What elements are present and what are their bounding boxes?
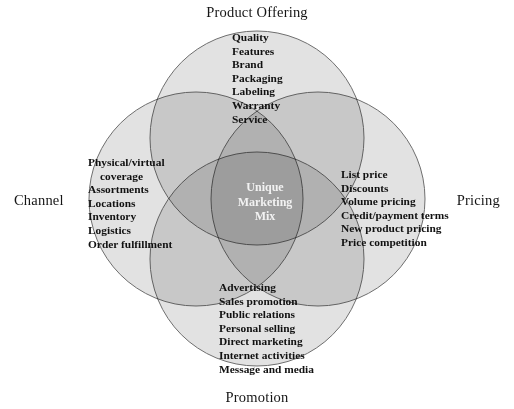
core-label-line-2: Marketing <box>226 195 304 210</box>
list-item: Assortments <box>88 183 172 197</box>
center-core-label: Unique Marketing Mix <box>226 180 304 224</box>
list-item: Direct marketing <box>219 335 314 349</box>
list-item: Physical/virtual <box>88 156 172 170</box>
list-item: Quality <box>232 31 283 45</box>
list-item: New product pricing <box>341 222 449 236</box>
list-item: Inventory <box>88 210 172 224</box>
list-item: Volume pricing <box>341 195 449 209</box>
list-item: Labeling <box>232 85 283 99</box>
list-item: Public relations <box>219 308 314 322</box>
list-item: Advertising <box>219 281 314 295</box>
list-item: Internet activities <box>219 349 314 363</box>
axis-label-product-offering: Product Offering <box>0 4 514 21</box>
list-item: Message and media <box>219 363 314 377</box>
axis-label-promotion: Promotion <box>0 389 514 406</box>
list-item: Locations <box>88 197 172 211</box>
item-list-pricing: List price Discounts Volume pricing Cred… <box>341 168 449 250</box>
axis-label-pricing: Pricing <box>457 192 500 209</box>
list-item: Personal selling <box>219 322 314 336</box>
core-label-line-3: Mix <box>226 209 304 224</box>
list-item: coverage <box>88 170 172 184</box>
item-list-product-offering: Quality Features Brand Packaging Labelin… <box>232 31 283 126</box>
axis-label-channel: Channel <box>14 192 64 209</box>
list-item: Price competition <box>341 236 449 250</box>
list-item: Credit/payment terms <box>341 209 449 223</box>
list-item: Logistics <box>88 224 172 238</box>
list-item: Service <box>232 113 283 127</box>
list-item: List price <box>341 168 449 182</box>
list-item: Brand <box>232 58 283 72</box>
list-item: Warranty <box>232 99 283 113</box>
core-label-line-1: Unique <box>226 180 304 195</box>
list-item: Sales promotion <box>219 295 314 309</box>
item-list-promotion: Advertising Sales promotion Public relat… <box>219 281 314 376</box>
item-list-channel: Physical/virtual coverage Assortments Lo… <box>88 156 172 251</box>
list-item: Features <box>232 45 283 59</box>
list-item: Discounts <box>341 182 449 196</box>
list-item: Order fulfillment <box>88 238 172 252</box>
list-item: Packaging <box>232 72 283 86</box>
venn-diagram-figure: .lobe { fill: #e2e2e2; stroke: #6e6e6e; … <box>0 0 514 409</box>
